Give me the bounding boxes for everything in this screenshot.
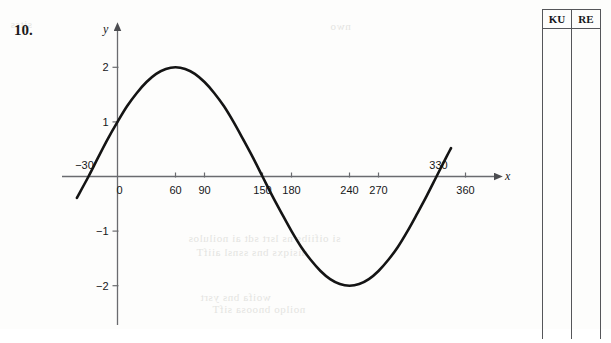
- marks-table: KU RE: [542, 9, 601, 339]
- marks-column-ku[interactable]: KU: [543, 10, 571, 339]
- y-tick-label: −1: [96, 225, 109, 237]
- x-axis-label: x: [504, 169, 511, 183]
- y-tick-label: 1: [102, 116, 108, 128]
- marks-cell-ku[interactable]: [543, 29, 571, 343]
- x-axis-tick-labels: 06090150180240270360: [116, 184, 474, 196]
- marks-header-re: RE: [572, 10, 600, 29]
- sine-graph-figure: 06090150180240270360 21−1−2 −30330 x y: [0, 0, 530, 329]
- x-tick-label: 180: [282, 184, 300, 196]
- x-tick-label: 360: [456, 184, 474, 196]
- y-tick-label: 2: [102, 61, 108, 73]
- x-tick-label: 90: [198, 184, 210, 196]
- marks-cell-re[interactable]: [572, 29, 600, 343]
- y-axis-label: y: [102, 22, 109, 36]
- marks-table-columns: KU RE: [542, 9, 601, 339]
- x-tick-label: 0: [116, 184, 122, 196]
- graph-svg: 06090150180240270360 21−1−2 −30330 x y: [0, 0, 530, 329]
- above-axis-labels: −30330: [75, 159, 448, 171]
- y-tick-label: −2: [96, 280, 109, 292]
- axes: [62, 30, 495, 325]
- x-tick-label: 240: [340, 184, 358, 196]
- marks-column-re[interactable]: RE: [571, 10, 600, 339]
- x-tick-label: 60: [169, 184, 181, 196]
- marks-header-ku: KU: [543, 10, 571, 29]
- x-tick-label: 270: [369, 184, 387, 196]
